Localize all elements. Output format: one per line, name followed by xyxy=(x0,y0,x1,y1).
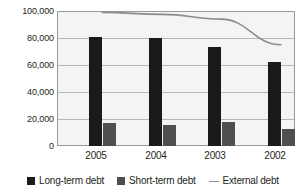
square-dark-icon xyxy=(27,177,35,185)
x-axis-tick-2004: 2004 xyxy=(131,150,181,162)
legend-label-short-term-debt: Short-term debt xyxy=(129,175,195,187)
x-axis: 2005 2004 2003 2002 xyxy=(57,150,295,166)
legend-item-short-term-debt: Short-term debt xyxy=(117,175,195,187)
external-debt-line-path xyxy=(102,12,281,44)
y-axis: 100,000 80,000 60,000 40,000 20,000 0 xyxy=(0,0,54,160)
legend-label-long-term-debt: Long-term debt xyxy=(39,175,104,187)
y-axis-tick-0: 0 xyxy=(0,142,54,151)
x-axis-tick-2002: 2002 xyxy=(250,150,300,162)
y-axis-tick-80000: 80,000 xyxy=(0,34,54,43)
debt-composition-chart: 100,000 80,000 60,000 40,000 20,000 0 xyxy=(0,0,306,193)
y-axis-tick-100000: 100,000 xyxy=(0,7,54,16)
external-debt-line-series xyxy=(57,11,295,146)
line-grey-icon xyxy=(209,177,219,185)
square-grey-icon xyxy=(117,177,125,185)
legend-item-long-term-debt: Long-term debt xyxy=(27,175,104,187)
legend-item-external-debt: External debt xyxy=(209,175,279,187)
chart-legend: Long-term debt Short-term debt External … xyxy=(0,172,306,190)
y-axis-tick-40000: 40,000 xyxy=(0,88,54,97)
y-axis-tick-20000: 20,000 xyxy=(0,115,54,124)
x-axis-tick-2005: 2005 xyxy=(71,150,121,162)
legend-label-external-debt: External debt xyxy=(223,175,279,187)
x-axis-tick-2003: 2003 xyxy=(190,150,240,162)
y-axis-tick-60000: 60,000 xyxy=(0,61,54,70)
